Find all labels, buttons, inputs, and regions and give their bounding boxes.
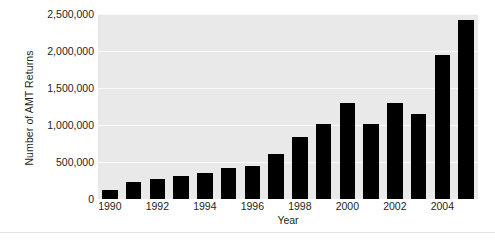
bar <box>221 168 237 199</box>
bar <box>387 103 403 199</box>
y-axis-tick-label: 2,500,000 <box>2 9 94 19</box>
bar-chart-figure: Number of AMT Returns 0500,0001,000,0001… <box>0 0 495 244</box>
y-axis-tick-label: 500,000 <box>2 157 94 167</box>
x-axis-title: Year <box>98 214 478 226</box>
bar <box>363 124 379 199</box>
gridline <box>98 51 478 52</box>
bar <box>458 20 474 199</box>
x-axis-tick-label: 1994 <box>193 200 216 212</box>
bar <box>435 55 451 199</box>
bar <box>150 179 166 199</box>
bar <box>411 114 427 199</box>
bar <box>268 154 284 199</box>
bar <box>126 182 142 199</box>
bar <box>340 103 356 199</box>
y-axis-tick-label: 1,500,000 <box>2 83 94 93</box>
y-axis-tick-label: 2,000,000 <box>2 46 94 56</box>
bar <box>102 190 118 199</box>
x-axis-tick-label: 2002 <box>383 200 406 212</box>
y-axis-tick-label: 0 <box>2 194 94 204</box>
bar <box>197 173 213 199</box>
x-axis-tick-label: 1996 <box>241 200 264 212</box>
bar <box>316 124 332 199</box>
gridline <box>98 14 478 15</box>
gridline <box>98 88 478 89</box>
bottom-divider <box>0 232 495 233</box>
bar <box>292 137 308 199</box>
x-axis-tick-label: 1998 <box>288 200 311 212</box>
y-axis-tick-label: 1,000,000 <box>2 120 94 130</box>
bar <box>173 176 189 199</box>
x-axis-tick-label: 1992 <box>146 200 169 212</box>
bar <box>245 166 261 199</box>
x-axis-tick-label: 2000 <box>336 200 359 212</box>
x-axis-tick-label: 1990 <box>98 200 121 212</box>
x-axis-tick-label: 2004 <box>431 200 454 212</box>
plot-area <box>98 14 478 199</box>
y-axis-tick-labels: 0500,0001,000,0001,500,0002,000,0002,500… <box>0 0 94 244</box>
